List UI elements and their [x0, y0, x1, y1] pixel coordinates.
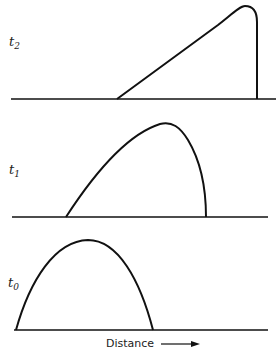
x-axis-label: Distance — [106, 337, 154, 350]
time-label-t0: t0 — [8, 275, 19, 292]
pulse-curve-t0 — [16, 240, 153, 330]
panel-t2: t2 — [9, 6, 276, 99]
pulse-curve-t1 — [66, 123, 206, 217]
wave-steepening-diagram: t2 t1 t0 Distance — [0, 0, 279, 353]
diagram-canvas: t2 t1 t0 Distance — [0, 0, 279, 353]
panel-t1: t1 — [9, 123, 268, 217]
x-axis-annotation: Distance — [106, 337, 200, 350]
right-arrow-icon — [161, 341, 200, 347]
panel-t0: t0 — [8, 240, 268, 330]
time-label-t1: t1 — [9, 162, 20, 179]
pulse-curve-t2 — [117, 6, 257, 99]
time-label-t2: t2 — [9, 34, 20, 51]
